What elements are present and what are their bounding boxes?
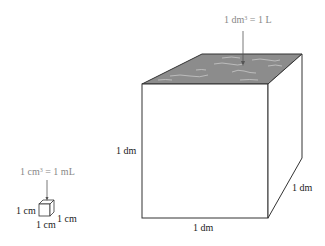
small-volume-equals: = 1 mL bbox=[43, 166, 75, 177]
small-cube-volume-label: 1 cm3 = 1 mL bbox=[20, 167, 75, 177]
large-cube-edge-right: 1 dm bbox=[292, 183, 312, 193]
small-cube-edge-right: 1 cm bbox=[57, 214, 77, 224]
large-volume-equals: = 1 L bbox=[247, 14, 271, 25]
small-volume-unit: 1 cm bbox=[20, 166, 40, 177]
small-cube-edge-bottom: 1 cm bbox=[36, 220, 56, 230]
small-cube-front-face bbox=[39, 204, 50, 216]
small-cube-edge-left: 1 cm bbox=[16, 206, 36, 216]
large-cube-volume-label: 1 dm3 = 1 L bbox=[224, 15, 272, 25]
large-volume-unit: 1 dm bbox=[224, 14, 244, 25]
large-cube-edge-bottom: 1 dm bbox=[193, 223, 213, 233]
large-cube-edge-left: 1 dm bbox=[116, 146, 136, 156]
large-cube-front-face bbox=[142, 84, 268, 218]
cube-diagram bbox=[0, 0, 325, 246]
